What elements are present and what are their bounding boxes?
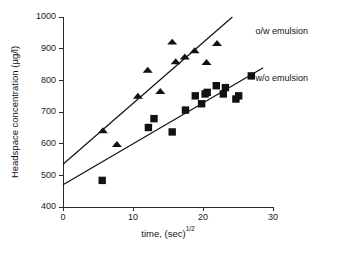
data-point-square xyxy=(182,106,189,113)
y-tick-label: 800 xyxy=(41,75,56,85)
data-point-square xyxy=(220,90,227,97)
y-tick-label: 500 xyxy=(41,170,56,180)
x-tick-label: 30 xyxy=(268,212,278,222)
data-point-square xyxy=(169,128,176,135)
data-point-square xyxy=(222,84,229,91)
data-point-triangle xyxy=(98,127,108,133)
y-tick-label: 1000 xyxy=(36,11,56,21)
data-point-triangle xyxy=(212,40,222,46)
data-point-square xyxy=(248,72,255,79)
y-axis-title: Headspace concentration (µg/l) xyxy=(9,46,20,178)
data-point-square xyxy=(198,100,205,107)
y-tick-label: 600 xyxy=(41,138,56,148)
x-tick-label: 10 xyxy=(128,212,138,222)
scatter-plot: 4005006007008009001000 0102030 o/w emuls… xyxy=(0,0,340,254)
data-point-square xyxy=(150,115,157,122)
data-point-triangle xyxy=(155,88,165,94)
y-tick-label: 900 xyxy=(41,43,56,53)
data-point-triangle xyxy=(202,59,212,65)
series-label-triangle: o/w emulsion xyxy=(256,26,309,36)
x-tick-label: 0 xyxy=(60,212,65,222)
series-annotations: o/w emulsionw/o emulsion xyxy=(255,26,309,84)
x-tick-label: 20 xyxy=(198,212,208,222)
x-axis-title: time, (sec)1/2 xyxy=(141,225,195,240)
y-tick-label: 400 xyxy=(41,201,56,211)
data-point-triangle xyxy=(171,58,181,64)
data-point-triangle xyxy=(112,141,122,147)
y-tick-label: 700 xyxy=(41,106,56,116)
data-point-square xyxy=(235,92,242,99)
data-point-triangle xyxy=(143,67,153,73)
data-point-square xyxy=(99,177,106,184)
data-markers xyxy=(98,39,255,184)
data-point-triangle xyxy=(180,54,190,60)
data-point-square xyxy=(213,82,220,89)
data-point-square xyxy=(145,124,152,131)
data-point-triangle xyxy=(167,39,177,45)
chart-figure: 4005006007008009001000 0102030 o/w emuls… xyxy=(0,0,340,254)
series-label-square: w/o emulsion xyxy=(255,73,309,83)
data-point-triangle xyxy=(190,47,200,53)
y-axis-ticks: 4005006007008009001000 xyxy=(36,11,63,211)
data-point-square xyxy=(192,92,199,99)
trend-line-square xyxy=(63,68,263,185)
x-axis-ticks: 0102030 xyxy=(60,207,278,222)
data-point-square xyxy=(204,89,211,96)
